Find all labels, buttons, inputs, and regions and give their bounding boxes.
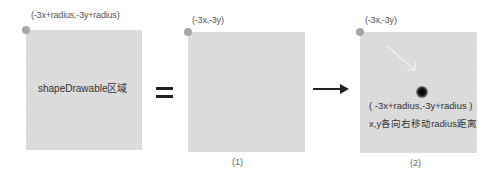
panel3-caption: (2) (410, 158, 421, 168)
panel2-coord-label: (-3x,-3y) (192, 15, 224, 25)
panel3-body-text-line1: ( -3x+radius,-3y+radius ) (369, 100, 472, 111)
panel3-body-text-line2: x,y各向右移动radius距离 (369, 116, 477, 130)
panel3-coord-label: (-3x,-3y) (365, 15, 397, 25)
panel3-shift-arrow-icon (385, 42, 425, 77)
panel1-corner-dot-icon (22, 26, 30, 34)
panel1-body-text: shapeDrawable区域 (38, 80, 128, 95)
equals-sign-icon (156, 87, 173, 98)
panel3-shifted-shape-area: ( -3x+radius,-3y+radius ) x,y各向右移动radius… (360, 32, 477, 153)
panel2-caption: (1) (232, 157, 243, 167)
panel1-shape-drawable-area: shapeDrawable区域 (26, 30, 142, 150)
panel2-corner-dot-icon (184, 28, 192, 36)
panel2-shape-area (188, 32, 305, 152)
panel3-corner-dot-icon (356, 28, 364, 36)
panel3-shadow-dot-icon (416, 86, 428, 98)
panel1-coord-label: (-3x+radius,-3y+radius) (31, 10, 119, 20)
arrow-right-icon (313, 84, 349, 94)
